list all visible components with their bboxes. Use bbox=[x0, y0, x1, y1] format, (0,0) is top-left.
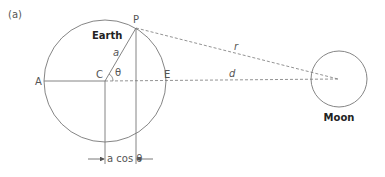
line-d-dashed bbox=[105, 79, 338, 81]
projection-label: a cos θ bbox=[107, 153, 142, 164]
moon-circle bbox=[311, 51, 367, 107]
distance-r-label: r bbox=[234, 41, 239, 52]
diagram-figure: (a) Earth Moon P A C E a θ r d a cos θ bbox=[0, 0, 385, 177]
point-c-label: C bbox=[96, 69, 103, 80]
earth-moon-geometry-diagram: (a) Earth Moon P A C E a θ r d a cos θ bbox=[0, 0, 385, 177]
radius-a-label: a bbox=[113, 47, 119, 58]
moon-label: Moon bbox=[324, 112, 355, 123]
panel-label: (a) bbox=[8, 9, 22, 20]
point-e-label: E bbox=[164, 69, 170, 80]
point-p-label: P bbox=[133, 14, 139, 25]
earth-label: Earth bbox=[92, 30, 122, 41]
point-a-label: A bbox=[35, 76, 42, 87]
angle-arc bbox=[109, 74, 113, 81]
distance-d-label: d bbox=[229, 68, 236, 79]
angle-theta-label: θ bbox=[115, 67, 121, 78]
